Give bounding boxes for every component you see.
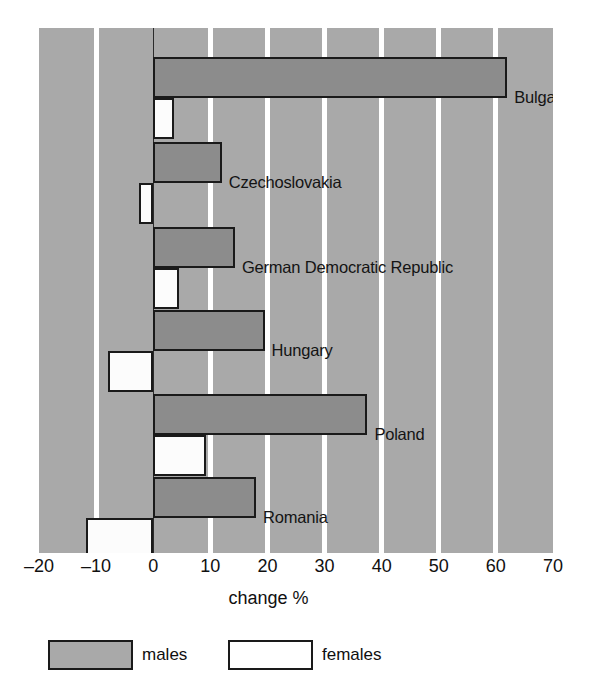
gridline-50 <box>436 28 441 553</box>
bar-female <box>108 351 153 392</box>
bar-male <box>153 477 256 518</box>
x-tick-label: 50 <box>429 556 449 577</box>
x-tick-label: 20 <box>257 556 277 577</box>
x-tick-label: 70 <box>543 556 563 577</box>
bar-male <box>153 227 235 268</box>
bar-female <box>86 518 153 553</box>
legend-entry-females: females <box>228 640 382 670</box>
bar-male <box>153 57 507 98</box>
country-label: Romania <box>263 508 328 527</box>
x-tick-label: 60 <box>486 556 506 577</box>
legend-label-males: males <box>142 645 187 665</box>
x-tick-label: –10 <box>81 556 111 577</box>
chart-figure: BulgariaCzechoslovakiaGerman Democratic … <box>0 0 593 692</box>
country-label: German Democratic Republic <box>242 258 453 277</box>
x-axis-title-text: change % <box>228 588 308 608</box>
bar-male <box>153 394 367 435</box>
x-tick-label: 40 <box>372 556 392 577</box>
gridline-60 <box>493 28 498 553</box>
x-axis-title: change % <box>0 588 593 609</box>
gridline-30 <box>322 28 327 553</box>
country-label: Bulgaria <box>514 88 553 107</box>
bar-female <box>153 435 206 476</box>
bar-female <box>139 183 153 224</box>
x-tick-label: –20 <box>24 556 54 577</box>
country-label: Hungary <box>272 341 333 360</box>
chart-legend: malesfemales <box>0 640 593 682</box>
bar-female <box>153 268 179 309</box>
bar-female <box>153 98 174 139</box>
x-tick-label: 10 <box>200 556 220 577</box>
gridline-40 <box>379 28 384 553</box>
plot-area: BulgariaCzechoslovakiaGerman Democratic … <box>39 28 553 553</box>
legend-entry-males: males <box>48 640 187 670</box>
bar-male <box>153 310 264 351</box>
legend-swatch-males <box>48 640 133 670</box>
x-axis: –20–10010203040506070 <box>0 556 593 588</box>
x-tick-label: 30 <box>315 556 335 577</box>
gridline-10 <box>208 28 213 553</box>
x-tick-label: 0 <box>148 556 158 577</box>
legend-swatch-females <box>228 640 313 670</box>
legend-label-females: females <box>322 645 382 665</box>
country-label: Poland <box>374 425 424 444</box>
gridline--10 <box>94 28 99 553</box>
gridline-20 <box>265 28 270 553</box>
country-label: Czechoslovakia <box>229 173 342 192</box>
bar-male <box>153 142 222 183</box>
